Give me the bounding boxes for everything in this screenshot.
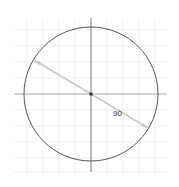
- dimension-label: 90: [113, 109, 122, 118]
- center-point: [90, 93, 93, 96]
- diagram-canvas: 90: [0, 0, 179, 187]
